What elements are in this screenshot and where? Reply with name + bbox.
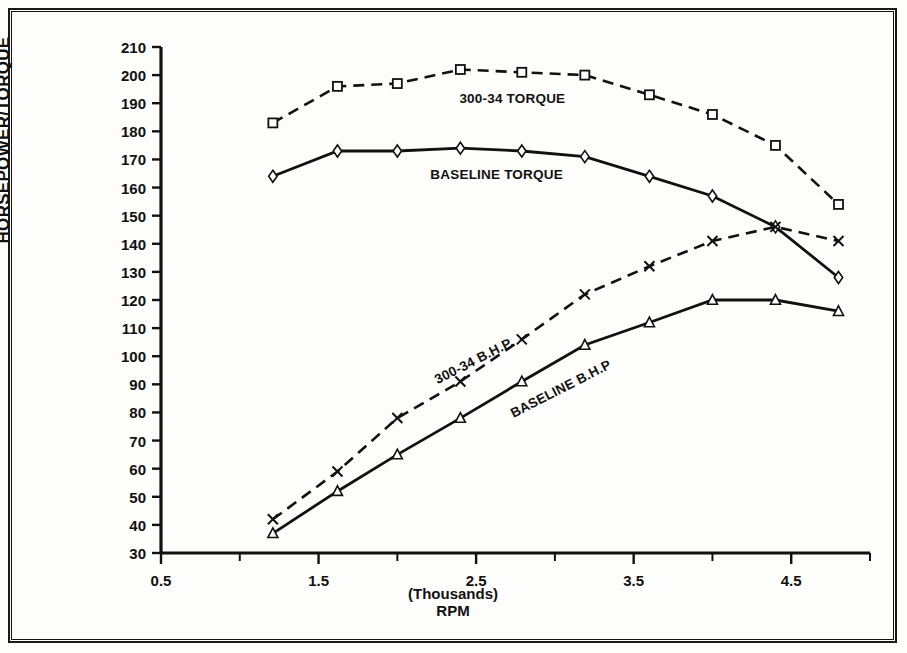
marker-diamond xyxy=(518,145,526,157)
y-tick-label: 180 xyxy=(121,123,146,140)
y-tick-label: 40 xyxy=(129,517,146,534)
chart-canvas: 3040506070809010011012013014015016017018… xyxy=(0,0,907,653)
y-tick-label: 140 xyxy=(121,236,146,253)
marker-diamond xyxy=(834,272,842,284)
y-tick-label: 80 xyxy=(129,404,146,421)
data-point-marker xyxy=(393,145,401,157)
x-axis-title-units: (Thousands) xyxy=(353,586,553,603)
marker-square xyxy=(333,82,342,91)
y-tick-label: 30 xyxy=(129,545,146,562)
series-label: 300-34 TORQUE xyxy=(459,91,565,106)
data-point-marker xyxy=(580,71,589,80)
data-point-marker xyxy=(708,110,717,119)
y-tick-label: 90 xyxy=(129,376,146,393)
series-4: BASELINE B.H.P xyxy=(268,295,844,538)
x-tick-label: 0.5 xyxy=(151,572,172,589)
data-point-marker xyxy=(645,170,653,182)
marker-square xyxy=(645,90,654,99)
marker-square xyxy=(517,68,526,77)
marker-triangle xyxy=(268,528,278,538)
data-point-marker xyxy=(333,145,341,157)
data-point-marker xyxy=(517,68,526,77)
data-point-marker xyxy=(268,514,278,524)
marker-diamond xyxy=(708,190,716,202)
series-label: BASELINE B.H.P xyxy=(508,357,614,421)
y-tick-label: 130 xyxy=(121,264,146,281)
data-point-marker xyxy=(771,141,780,150)
x-tick-label: 3.5 xyxy=(623,572,644,589)
data-point-marker xyxy=(268,118,277,127)
data-point-marker xyxy=(392,413,402,423)
y-tick-label: 100 xyxy=(121,348,146,365)
plot-area: 3040506070809010011012013014015016017018… xyxy=(0,0,907,653)
data-point-marker xyxy=(333,82,342,91)
data-point-marker xyxy=(518,145,526,157)
series-line xyxy=(273,227,839,519)
y-tick-label: 190 xyxy=(121,95,146,112)
marker-diamond xyxy=(393,145,401,157)
marker-diamond xyxy=(645,170,653,182)
data-point-marker xyxy=(834,272,842,284)
data-point-marker xyxy=(455,377,465,387)
data-point-marker xyxy=(456,65,465,74)
series-line xyxy=(273,70,839,205)
y-tick-label: 200 xyxy=(121,67,146,84)
marker-diamond xyxy=(581,151,589,163)
data-point-marker xyxy=(708,190,716,202)
series-label: BASELINE TORQUE xyxy=(430,167,563,182)
marker-diamond xyxy=(456,142,464,154)
x-tick-label: 1.5 xyxy=(308,572,329,589)
data-point-marker xyxy=(580,289,590,299)
marker-diamond xyxy=(269,170,277,182)
y-tick-label: 70 xyxy=(129,433,146,450)
data-point-marker xyxy=(645,90,654,99)
marker-square xyxy=(456,65,465,74)
series-1: 300-34 TORQUE xyxy=(268,65,843,209)
series-2: BASELINE TORQUE xyxy=(269,142,843,283)
y-tick-label: 150 xyxy=(121,208,146,225)
y-tick-label: 210 xyxy=(121,39,146,56)
series-3: 300-34 B.H.P. xyxy=(268,222,844,524)
data-point-marker xyxy=(332,466,342,476)
series-line xyxy=(273,300,839,533)
data-point-marker xyxy=(393,79,402,88)
x-tick-label: 4.5 xyxy=(781,572,802,589)
marker-square xyxy=(268,118,277,127)
marker-square xyxy=(580,71,589,80)
y-axis-title: HORSEPOWER/TORQUE xyxy=(0,0,14,300)
y-tick-label: 110 xyxy=(122,320,146,337)
chart-figure: 3040506070809010011012013014015016017018… xyxy=(0,0,907,653)
y-tick-label: 120 xyxy=(121,292,146,309)
data-point-marker xyxy=(269,170,277,182)
x-axis-title-main: RPM xyxy=(353,603,553,620)
marker-square xyxy=(834,200,843,209)
data-point-marker xyxy=(581,151,589,163)
y-tick-label: 60 xyxy=(129,461,146,478)
y-tick-label: 50 xyxy=(129,489,146,506)
x-axis-title: (Thousands) RPM xyxy=(353,586,553,620)
data-point-marker xyxy=(268,528,278,538)
marker-square xyxy=(771,141,780,150)
marker-square xyxy=(393,79,402,88)
series-label: 300-34 B.H.P. xyxy=(432,334,516,387)
data-point-marker xyxy=(834,200,843,209)
marker-diamond xyxy=(333,145,341,157)
y-tick-label: 160 xyxy=(121,180,146,197)
marker-square xyxy=(708,110,717,119)
data-point-marker xyxy=(517,334,527,344)
y-tick-label: 170 xyxy=(121,151,146,168)
data-point-marker xyxy=(456,142,464,154)
